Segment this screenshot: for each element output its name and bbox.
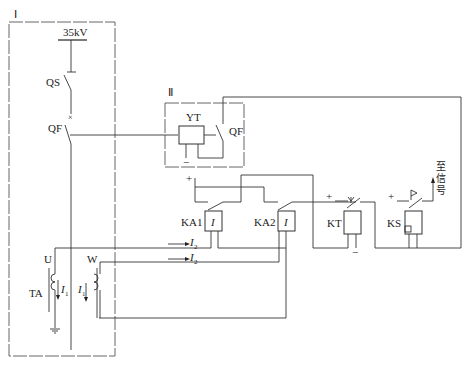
qs-blade [64, 75, 71, 90]
kt-relay-coil [344, 211, 361, 234]
ks-to-signal [422, 183, 433, 201]
region-i-box [9, 22, 115, 356]
ta-label: TA [29, 287, 43, 299]
phase-w-label: W [87, 253, 98, 265]
qf-x-mark: × [68, 113, 73, 122]
qf-aux-contact [216, 125, 223, 141]
i2-sub-2: 2 [194, 258, 198, 266]
ground-icon [50, 329, 60, 333]
region-i-label: Ⅰ [14, 8, 17, 20]
yt-trip-coil [179, 126, 204, 144]
kt-contact [347, 198, 360, 208]
ka2-contact [278, 202, 292, 210]
ks-flag-icon [411, 190, 417, 200]
qs-label: QS [46, 76, 60, 88]
ka1-label: KA1 [181, 216, 202, 228]
ks-plus: + [388, 190, 394, 202]
i2-sub-1: 2 [194, 243, 198, 251]
signal-text-1: 至 [436, 161, 446, 172]
i1-arrow-icon-u [56, 295, 60, 300]
ks-label: KS [387, 217, 401, 229]
signal-text-3: 号 [436, 185, 446, 196]
ks-relay-coil [405, 211, 422, 234]
i1-arrow-icon-w [84, 297, 88, 302]
i1-sub-w: 1 [82, 290, 86, 298]
qf-label: QF [48, 122, 62, 134]
signal-text-2: 信 [436, 173, 446, 184]
relay-protection-diagram: Ⅰ 35kV QS × QF Ⅱ YT − QF + I KA1 I KA2 + [0, 0, 469, 366]
ka2-label: KA2 [254, 216, 275, 228]
ka1-contact-out [223, 175, 313, 202]
ka1-ka2-link [218, 231, 286, 248]
ta-u-winding-icon [51, 274, 55, 290]
yt-label: YT [186, 111, 201, 123]
phase-u-label: U [44, 253, 52, 265]
ka2-contact-in [264, 187, 278, 202]
signal-arrow-icon [431, 177, 435, 183]
ka-plus: + [186, 172, 192, 184]
qf-blade [65, 125, 71, 144]
qf-aux-label: QF [229, 125, 243, 137]
kt-minus: − [352, 246, 358, 258]
yt-minus: − [183, 156, 189, 168]
kt-plus: + [326, 190, 332, 202]
i1-sub-u: 1 [65, 290, 69, 298]
u-phase-secondary [55, 231, 211, 248]
bus-voltage-label: 35kV [63, 26, 88, 38]
region-ii-label: Ⅱ [168, 86, 173, 98]
ka1-contact [208, 202, 223, 210]
kt-label: KT [327, 217, 342, 229]
